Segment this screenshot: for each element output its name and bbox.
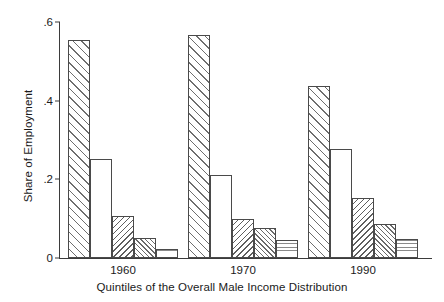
bar-1960-q2 xyxy=(90,159,112,259)
y-tick-label: .2 xyxy=(43,173,53,185)
y-axis-line xyxy=(59,22,60,258)
y-tick-label: .4 xyxy=(43,95,53,107)
y-tick-label: .6 xyxy=(43,16,53,28)
y-tick-mark xyxy=(55,100,60,101)
x-axis-line xyxy=(59,258,432,259)
x-tick-label: 1990 xyxy=(350,264,376,276)
bar-1960-q3 xyxy=(112,216,134,258)
bar-1970-q2 xyxy=(210,175,232,258)
bar-1970-q4 xyxy=(254,228,276,258)
y-tick-mark xyxy=(55,179,60,180)
plot-area: 0.2.4.6 196019701990 xyxy=(60,22,432,258)
bar-1990-q5 xyxy=(396,239,418,258)
bar-1960-q1 xyxy=(68,40,90,258)
x-axis-title: Quintiles of the Overall Male Income Dis… xyxy=(0,281,444,293)
y-tick-mark xyxy=(55,258,60,259)
bar-1960-q4 xyxy=(134,238,156,258)
x-tick-label: 1970 xyxy=(230,264,256,276)
bar-1990-q4 xyxy=(374,224,396,258)
bar-1990-q1 xyxy=(308,86,330,258)
bar-1990-q3 xyxy=(352,198,374,258)
bar-1990-q2 xyxy=(330,149,352,258)
x-tick-label: 1960 xyxy=(110,264,136,276)
bar-1960-q5 xyxy=(156,249,178,258)
y-tick-label: 0 xyxy=(47,252,53,264)
y-axis-title: Share of Employment xyxy=(22,46,34,246)
chart-figure: Share of Employment 0.2.4.6 196019701990… xyxy=(0,0,444,302)
y-tick-mark xyxy=(55,22,60,23)
bar-1970-q3 xyxy=(232,219,254,258)
bar-1970-q5 xyxy=(276,240,298,258)
bar-1970-q1 xyxy=(188,35,210,258)
